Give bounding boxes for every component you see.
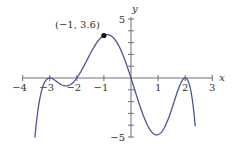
y-tick-label: −5 xyxy=(110,132,125,143)
x-tick-label: 1 xyxy=(155,82,161,93)
function-graph: −4−3−2−1123−55 (−1, 3.6) x y xyxy=(0,0,233,154)
x-tick-label: −4 xyxy=(12,82,27,93)
x-tick-label: −1 xyxy=(94,82,109,93)
y-axis-label: y xyxy=(131,3,138,14)
x-tick-label: −2 xyxy=(66,82,81,93)
point-label: (−1, 3.6) xyxy=(55,19,100,30)
x-axis-label: x xyxy=(219,72,225,83)
x-tick-label: 2 xyxy=(182,82,188,93)
x-tick-label: 3 xyxy=(209,82,215,93)
function-curve xyxy=(35,35,195,138)
highlight-point xyxy=(101,33,106,38)
y-tick-label: 5 xyxy=(119,14,125,25)
